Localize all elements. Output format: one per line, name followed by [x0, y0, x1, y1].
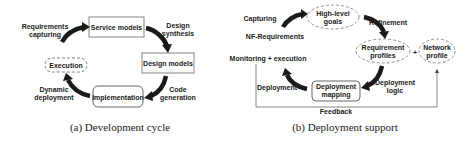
- label-capturing: Capturing: [243, 15, 276, 23]
- svg-text:Deployment: Deployment: [316, 83, 357, 91]
- arrow-capturing: [283, 9, 308, 27]
- label-generation: generation: [160, 94, 196, 102]
- svg-text:Network: Network: [423, 44, 451, 51]
- node-execution: Execution: [45, 58, 87, 72]
- plus-sign: +: [413, 49, 417, 56]
- label-code: Code: [169, 86, 187, 93]
- figure-a-development-cycle: Service models Design models Implementat…: [22, 17, 196, 134]
- svg-text:Execution: Execution: [49, 62, 82, 69]
- label-deployment-logic-1: Deployment: [375, 79, 416, 87]
- label-synthesis: synthesis: [162, 30, 194, 38]
- caption-b: (b) Deployment support: [292, 121, 398, 134]
- svg-text:profile: profile: [426, 52, 447, 60]
- label-deployment: Deployment: [257, 84, 298, 92]
- label-refinement: Refinement: [369, 19, 408, 26]
- svg-text:Service models: Service models: [91, 24, 142, 31]
- label-dynamic: Dynamic: [39, 86, 68, 94]
- node-design-models: Design models: [142, 53, 194, 73]
- label-nf-requirements: NF-Requirements: [246, 33, 304, 41]
- node-network-profile: Network profile: [419, 39, 455, 63]
- svg-text:Design models: Design models: [143, 60, 193, 68]
- node-deployment-mapping: Deployment mapping: [312, 81, 360, 101]
- svg-text:Requirement: Requirement: [362, 44, 405, 52]
- node-implementation: Implementation: [92, 86, 144, 107]
- label-design: Design: [166, 22, 189, 30]
- figure-b-deployment-support: High-level goals Requirement profiles + …: [230, 5, 455, 134]
- caption-a: (a) Development cycle: [70, 121, 170, 134]
- label-monitoring-execution: Monitoring + execution: [230, 55, 307, 63]
- label-deployment-logic-2: logic: [387, 87, 403, 95]
- svg-text:Implementation: Implementation: [92, 94, 144, 102]
- svg-text:mapping: mapping: [321, 91, 350, 99]
- node-service-models: Service models: [89, 17, 144, 37]
- svg-text:High-level: High-level: [316, 10, 350, 18]
- node-requirement-profiles: Requirement profiles: [356, 39, 410, 63]
- label-deployment: deployment: [34, 94, 74, 102]
- svg-text:goals: goals: [324, 18, 342, 26]
- label-requirements: Requirements: [22, 23, 69, 31]
- label-feedback: Feedback: [320, 108, 352, 115]
- diagram-canvas: Service models Design models Implementat…: [0, 0, 475, 145]
- node-high-level-goals: High-level goals: [307, 5, 359, 29]
- label-capturing: capturing: [29, 31, 61, 39]
- svg-text:profiles: profiles: [370, 52, 395, 60]
